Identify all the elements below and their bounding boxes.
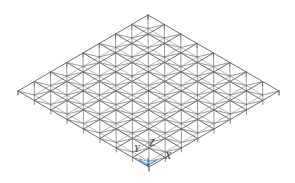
frame-member	[116, 101, 132, 105]
frame-member	[197, 63, 213, 67]
frame-member	[181, 72, 197, 76]
frame-member	[165, 120, 181, 124]
axis-label-z: Z	[149, 137, 155, 148]
axis-label-y: Y	[134, 143, 141, 154]
frame-member	[18, 91, 34, 95]
frame-member	[67, 120, 83, 124]
frame-member	[116, 129, 132, 133]
frame-member	[149, 158, 165, 162]
frame-member	[83, 53, 99, 57]
frame-member	[198, 101, 214, 105]
frame-member	[149, 110, 165, 114]
axis-label-x: X	[164, 150, 172, 161]
frame-member	[149, 148, 165, 152]
frame-member	[246, 91, 262, 95]
frame-member	[100, 101, 116, 105]
frame-member	[116, 110, 132, 114]
frame-member	[246, 101, 262, 105]
frame-member	[214, 120, 230, 124]
frame-member	[165, 53, 181, 57]
space-frame-diagram: Y Z X	[0, 0, 295, 183]
frame-member	[116, 91, 132, 95]
frame-member	[148, 72, 164, 76]
frame-member	[149, 91, 165, 95]
frame-member	[132, 101, 148, 105]
frame-member	[181, 63, 197, 67]
frame-member	[230, 91, 246, 95]
frame-member	[83, 110, 99, 114]
frame-member	[116, 34, 132, 38]
frame-member	[83, 72, 99, 76]
frame-member	[165, 82, 181, 86]
frame-member	[132, 72, 148, 76]
frame-member	[132, 82, 148, 86]
frame-member	[214, 110, 230, 114]
frame-member	[148, 34, 164, 38]
frame-member	[165, 44, 181, 48]
frame-member	[165, 139, 181, 143]
frame-member	[198, 110, 214, 114]
frame-member	[67, 101, 83, 105]
frame-member	[132, 25, 148, 29]
frame-member	[148, 82, 164, 86]
frame-member	[84, 129, 100, 133]
frame-member	[230, 82, 246, 86]
frame-member	[165, 63, 181, 67]
frame-member	[214, 72, 230, 76]
frame-member	[51, 72, 67, 76]
frame-member	[133, 139, 149, 143]
frame-member	[100, 120, 116, 124]
frame-member	[181, 91, 197, 95]
frame-member	[181, 129, 197, 133]
frame-member	[100, 91, 116, 95]
frame-member	[181, 53, 197, 57]
frame-member	[165, 129, 181, 133]
frame-member	[67, 110, 83, 114]
frame-member	[198, 120, 214, 124]
frame-member	[230, 101, 246, 105]
frame-member	[181, 139, 197, 143]
frame-member	[51, 91, 67, 95]
origin-dot	[146, 163, 149, 166]
frame-member	[116, 53, 132, 57]
frame-member	[132, 63, 148, 67]
frame-member	[100, 82, 116, 86]
frame-member	[99, 44, 115, 48]
frame-member	[67, 63, 83, 67]
frame-member	[83, 120, 99, 124]
axis-origin-marker	[139, 158, 157, 167]
frame-member	[34, 82, 50, 86]
